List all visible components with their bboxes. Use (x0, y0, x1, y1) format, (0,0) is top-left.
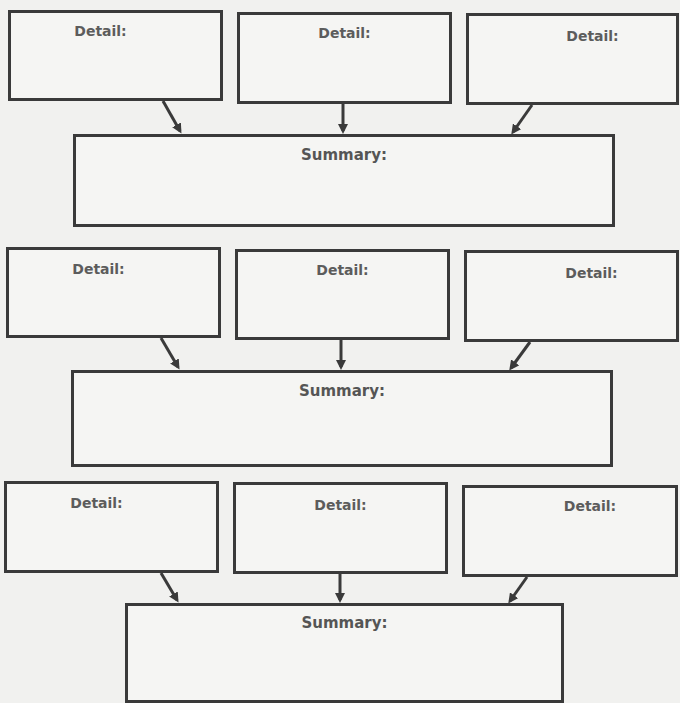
arrow-icon (513, 105, 532, 132)
arrow-icon (510, 577, 527, 601)
arrow-icon (161, 338, 178, 367)
arrow-icon (511, 342, 530, 368)
arrow-icon (161, 573, 177, 600)
arrow-icon (163, 101, 180, 131)
